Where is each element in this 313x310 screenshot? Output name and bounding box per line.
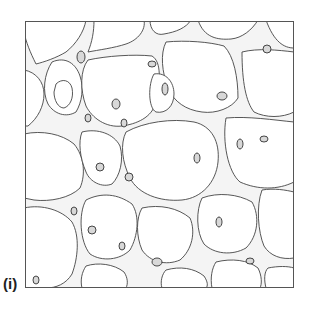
adipocyte-drawing	[26, 22, 293, 287]
panel-label: (i)	[3, 275, 17, 292]
illustration-frame	[25, 21, 294, 288]
